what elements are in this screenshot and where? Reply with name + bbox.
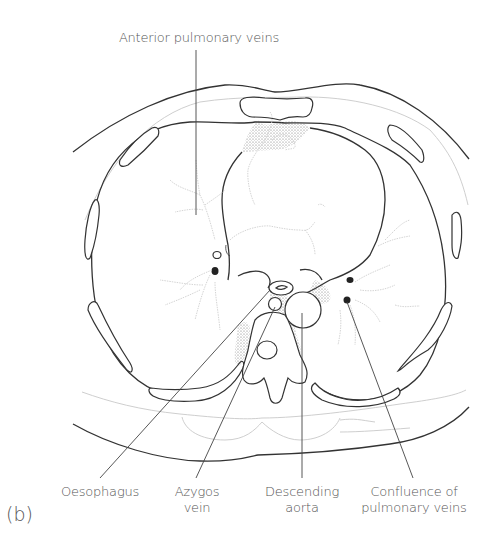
leader-oesophagus [100,290,270,478]
panel-label-text: (b) [6,503,33,525]
label-azygos-vein-line1: Azygos [160,484,234,500]
oesophagus-structure [269,281,293,295]
label-descending-aorta-line2: aorta [258,500,346,516]
sternum [240,97,313,120]
anatomy-figure: Anterior pulmonary veins Oesophagus Azyg… [0,0,498,558]
label-azygos-vein-line2: vein [160,500,234,516]
label-confluence-line2: pulmonary veins [354,500,474,516]
label-oesophagus-line1: Oesophagus [50,484,150,500]
leader-confluence [347,302,413,478]
label-azygos-vein: Azygos vein [160,484,234,516]
label-anterior-pulmonary-veins: Anterior pulmonary veins [106,30,292,46]
label-descending-aorta: Descending aorta [258,484,346,516]
panel-label: (b) [6,503,33,525]
label-descending-aorta-line1: Descending [258,484,346,500]
label-confluence-line1: Confluence of [354,484,474,500]
azygos-vein-structure [269,298,282,311]
thorax-cross-section-diagram [0,0,498,558]
label-oesophagus: Oesophagus [50,484,150,500]
descending-aorta-structure [285,292,321,328]
label-anterior-pulmonary-veins-text: Anterior pulmonary veins [119,30,279,45]
label-confluence-of-pulmonary-veins: Confluence of pulmonary veins [354,484,474,516]
